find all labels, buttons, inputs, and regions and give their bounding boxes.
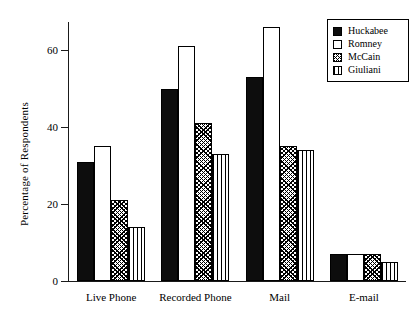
legend-label: Huckabee — [348, 26, 388, 36]
bar — [280, 146, 297, 281]
bar — [297, 150, 314, 281]
y-axis-tick — [61, 204, 69, 205]
y-axis-tick-label: 60 — [14, 44, 58, 56]
bar — [128, 227, 145, 281]
bar — [161, 89, 178, 281]
legend-label: Romney — [348, 39, 382, 49]
bar — [347, 254, 364, 281]
x-axis-label: Live Phone — [86, 291, 136, 303]
y-axis-tick — [61, 50, 69, 51]
y-axis-title: Percentage of Respondents — [18, 54, 30, 274]
bar — [94, 146, 111, 281]
x-axis-label: E-mail — [349, 291, 379, 303]
y-axis-tick — [61, 281, 69, 282]
legend-swatch-icon — [333, 53, 342, 62]
legend-swatch-icon — [333, 27, 342, 36]
bar-chart: Percentage of Respondents 0204060 Live P… — [0, 0, 415, 325]
legend-swatch-icon — [333, 66, 342, 75]
legend-item-huckabee: Huckabee — [333, 25, 404, 37]
y-axis-tick-label: 40 — [14, 121, 58, 133]
legend-label: McCain — [348, 52, 380, 62]
x-axis-line — [68, 281, 406, 282]
legend-item-romney: Romney — [333, 38, 404, 50]
x-axis-label: Recorded Phone — [159, 291, 231, 303]
bar — [212, 154, 229, 281]
x-axis-label: Mail — [269, 291, 290, 303]
bar — [77, 162, 94, 281]
bar — [246, 77, 263, 281]
y-axis-tick-label: 20 — [14, 198, 58, 210]
bar — [381, 262, 398, 281]
legend-item-mccain: McCain — [333, 51, 404, 63]
y-axis-tick-label: 0 — [14, 275, 58, 287]
bar — [364, 254, 381, 281]
legend-swatch-icon — [333, 40, 342, 49]
y-axis-tick — [61, 127, 69, 128]
legend-item-giuliani: Giuliani — [333, 64, 404, 76]
bar — [178, 46, 195, 281]
bar — [195, 123, 212, 281]
bar — [263, 27, 280, 281]
bar — [111, 200, 128, 281]
legend-label: Giuliani — [348, 65, 381, 75]
legend: Huckabee Romney McCain Giuliani — [327, 19, 409, 82]
bar — [330, 254, 347, 281]
